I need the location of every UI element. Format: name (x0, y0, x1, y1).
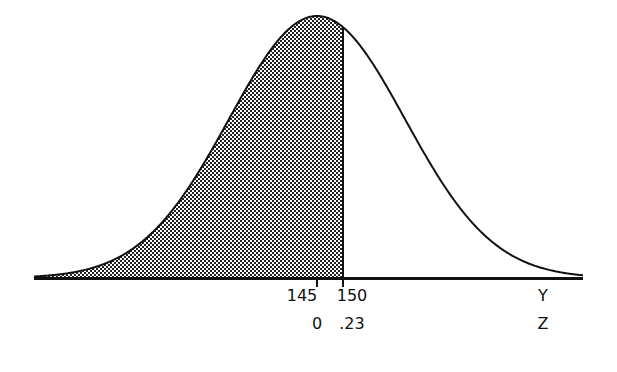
z-axis-label: Z (538, 316, 549, 332)
cutoff-y-label: 150 (337, 288, 368, 304)
mean-y-label: 145 (287, 288, 318, 304)
normal-curve-diagram (0, 0, 617, 372)
cutoff-z-label: .23 (339, 316, 364, 332)
shaded-area-left-of-cutoff (34, 16, 583, 278)
y-axis-label: Y (538, 288, 548, 304)
mean-z-label: 0 (312, 316, 322, 332)
